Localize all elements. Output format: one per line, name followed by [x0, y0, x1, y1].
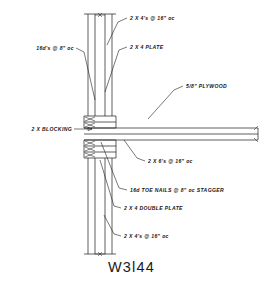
annotation-double-plate: 2 X 4 DOUBLE PLATE: [123, 205, 183, 211]
annotation-toe-nails: 16d TOE NAILS @ 8" oc STAGGER: [130, 187, 224, 193]
leader-floor-joists: [124, 140, 145, 161]
annotation-labels: 2 X 4's @ 16" oc 2 X 4 PLATE 16d's @ 8" …: [31, 15, 228, 239]
framing-detail-drawing: 2 X 4's @ 16" oc 2 X 4 PLATE 16d's @ 8" …: [0, 0, 263, 290]
upper-wall-studs: [84, 14, 116, 116]
leader-top-studs: [107, 18, 127, 45]
leader-top-plate: [105, 47, 127, 92]
floor-platform: [84, 128, 258, 140]
lower-wall-break-symbol: [95, 252, 105, 256]
annotation-blocking: 2 X BLOCKING: [31, 126, 72, 132]
annotation-bottom-studs: 2 X 4's @ 16" oc: [123, 233, 169, 239]
leader-plywood: [148, 86, 183, 119]
leader-nails-16d: [76, 48, 95, 100]
leader-bottom-studs: [104, 215, 121, 236]
annotation-top-studs: 2 X 4's @ 16" oc: [129, 15, 175, 21]
top-plate-assembly: [84, 116, 116, 128]
annotation-top-plate: 2 X 4 PLATE: [129, 44, 164, 50]
blocking-member: [84, 140, 116, 158]
upper-wall-break-symbol: [95, 13, 105, 17]
annotation-leaders: [74, 18, 183, 236]
detail-svg: 2 X 4's @ 16" oc 2 X 4 PLATE 16d's @ 8" …: [0, 0, 263, 290]
leader-double-plate: [100, 160, 121, 208]
annotation-nails-16d: 16d's @ 8" oc: [36, 45, 74, 51]
lower-wall-studs: [84, 158, 116, 254]
annotation-floor-joists: 2 X 6's @ 16" oc: [147, 158, 193, 164]
drawing-title: W3l44: [0, 259, 263, 275]
annotation-plywood: 5/8" PLYWOOD: [186, 83, 227, 89]
